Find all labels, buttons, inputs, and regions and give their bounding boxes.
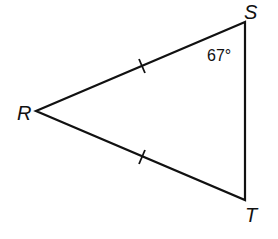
vertex-label-r: R bbox=[17, 103, 31, 123]
triangle-figure bbox=[0, 0, 278, 239]
vertex-label-t: T bbox=[245, 205, 257, 225]
angle-label-s: 67° bbox=[207, 48, 231, 64]
vertex-label-s: S bbox=[244, 2, 257, 22]
